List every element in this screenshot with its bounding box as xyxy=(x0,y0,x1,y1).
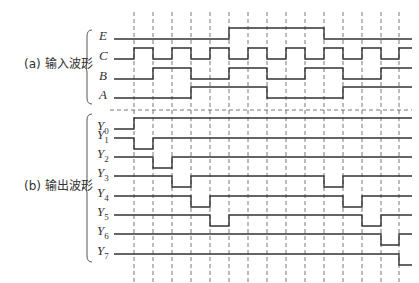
signal-subscript: 6 xyxy=(104,231,109,241)
waveform-y1 xyxy=(114,138,412,149)
signal-subscript: 2 xyxy=(104,154,109,164)
signal-label-a: A xyxy=(99,87,107,103)
waveform-a xyxy=(114,87,412,98)
signal-label-e: E xyxy=(99,28,107,44)
group-label-output: (b) 输出波形 xyxy=(24,176,93,193)
waveform-y5 xyxy=(114,215,412,226)
waveform-y4 xyxy=(114,196,412,207)
signal-label-y4: Y4 xyxy=(97,185,109,203)
signal-label-y3: Y3 xyxy=(97,165,109,183)
timing-diagram xyxy=(0,0,419,283)
signal-label-y2: Y2 xyxy=(97,146,109,164)
signal-name: E xyxy=(99,28,107,43)
signal-subscript: 3 xyxy=(104,173,109,183)
group-label-input: (a) 输入波形 xyxy=(24,54,93,71)
signal-label-y7: Y7 xyxy=(97,243,109,261)
signal-subscript: 7 xyxy=(104,251,109,261)
signal-label-b: B xyxy=(99,68,107,84)
signal-subscript: 4 xyxy=(104,193,109,203)
waveform-y7 xyxy=(114,254,412,265)
signal-label-c: C xyxy=(99,48,108,64)
waveform-y3 xyxy=(114,176,412,187)
waveform-y6 xyxy=(114,234,412,245)
signal-subscript: 1 xyxy=(104,135,109,145)
signal-name: C xyxy=(99,48,108,63)
signal-label-y5: Y5 xyxy=(97,204,109,222)
waveforms xyxy=(114,28,412,265)
signal-subscript: 5 xyxy=(104,212,109,222)
signal-label-y6: Y6 xyxy=(97,223,109,241)
waveform-e xyxy=(114,28,412,39)
signal-label-y1: Y1 xyxy=(97,127,109,145)
waveform-b xyxy=(114,68,412,79)
signal-name: A xyxy=(99,87,107,102)
waveform-y0 xyxy=(114,118,412,129)
signal-name: B xyxy=(99,68,107,83)
waveform-c xyxy=(114,48,412,59)
waveform-y2 xyxy=(114,157,412,168)
